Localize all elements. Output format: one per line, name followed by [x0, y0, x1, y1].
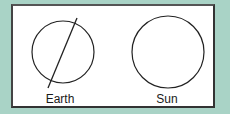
- sun-label: Sun: [137, 92, 197, 106]
- earth-label: Earth: [30, 92, 90, 106]
- earth-axis-line: [48, 18, 77, 88]
- sun-circle: [132, 16, 204, 88]
